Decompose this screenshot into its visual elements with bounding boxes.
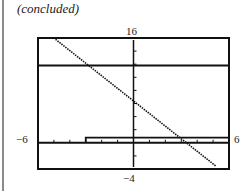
decreasing-line-curve bbox=[56, 39, 217, 166]
calculator-graph bbox=[0, 0, 251, 191]
plot-area bbox=[38, 38, 229, 169]
